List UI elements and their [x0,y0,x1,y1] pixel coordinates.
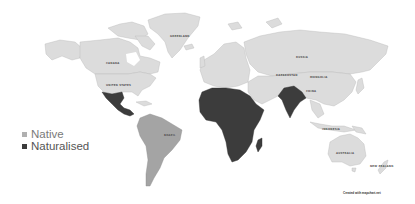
region-alaska [45,40,82,60]
region-south-america [137,114,182,186]
region-arctic-islands-2 [228,22,242,30]
legend-item-naturalised: Naturalised [22,140,89,152]
legend-label-naturalised: Naturalised [31,140,89,152]
legend-label-native: Native [31,128,64,140]
label-china: CHINA [306,90,316,93]
region-uk [200,56,205,68]
label-brazil: BRAZIL [164,134,176,137]
region-madagascar [256,138,262,152]
label-mongolia: MONGOLIA [310,76,328,79]
legend-item-native: Native [22,128,89,140]
label-united-states: UNITED STATES [106,84,131,87]
label-kazakhstan: KAZAKHSTAN [276,74,298,77]
label-canada: CANADA [106,62,119,65]
region-russia [244,30,388,76]
region-australia [328,134,366,166]
region-europe [200,42,250,88]
region-tasmania [352,168,356,172]
map-credit: Created with mapchart.net [343,191,381,195]
region-iceland [184,44,194,50]
region-mexico [102,92,134,116]
region-japan [356,78,364,94]
map-legend: Native Naturalised [22,128,89,152]
label-new-zealand: NEW ZEALAND [370,165,394,168]
label-indonesia: INDONESIA [322,128,340,131]
legend-swatch-native [22,132,27,137]
label-australia: AUSTRALIA [336,152,354,155]
region-arctic-islands [266,18,282,28]
world-map: GREENLAND CANADA UNITED STATES RUSSIA KA… [0,0,415,204]
legend-swatch-naturalised [22,144,27,149]
region-caribbean [136,101,152,106]
label-greenland: GREENLAND [170,35,190,38]
label-russia: RUSSIA [296,56,308,59]
